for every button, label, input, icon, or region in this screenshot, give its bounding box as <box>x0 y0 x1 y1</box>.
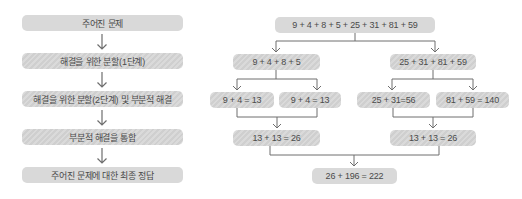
tree-connectors <box>0 0 522 199</box>
